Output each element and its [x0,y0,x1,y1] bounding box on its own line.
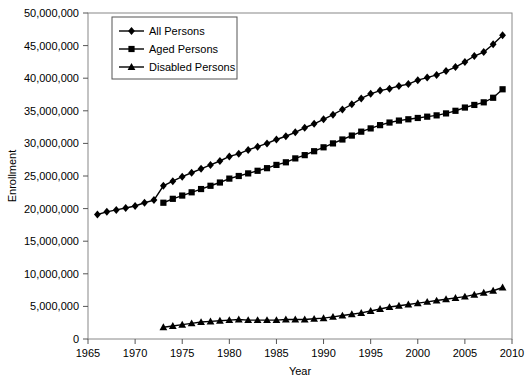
data-point-square [160,200,166,206]
data-point-square [189,189,195,195]
data-point-square [226,176,232,182]
x-axis-tick-label: 2010 [500,347,524,359]
data-point-square [236,173,242,179]
data-point-square [499,86,505,92]
data-point-square [471,102,477,108]
y-axis-tick-label: 15,000,000 [24,235,79,247]
x-axis-tick-label: 1965 [76,347,100,359]
chart-legend: All PersonsAged PersonsDisabled Persons [112,17,237,79]
legend-label: Aged Persons [149,43,219,55]
data-point-square [490,95,496,101]
y-axis-tick-label: 20,000,000 [24,203,79,215]
data-point-square [415,115,421,121]
y-axis-tick-label: 50,000,000 [24,7,79,19]
data-point-square [434,112,440,118]
data-point-square [198,186,204,192]
legend-label: All Persons [149,25,205,37]
data-point-square [128,46,134,52]
data-point-square [452,108,458,114]
data-point-square [377,122,383,128]
data-point-square [424,114,430,120]
x-axis-tick-label: 2000 [406,347,430,359]
x-axis-tick-label: 1995 [358,347,382,359]
data-point-square [207,183,213,189]
x-axis-tick-label: 1985 [264,347,288,359]
x-axis-tick-label: 1980 [217,347,241,359]
x-axis-tick-label: 1990 [311,347,335,359]
data-point-square [481,99,487,105]
data-point-square [349,132,355,138]
y-axis-tick-label: 45,000,000 [24,40,79,52]
y-axis-tick-label: 25,000,000 [24,170,79,182]
y-axis-tick-label: 35,000,000 [24,105,79,117]
y-axis-tick-label: 30,000,000 [24,137,79,149]
data-point-square [170,196,176,202]
data-point-square [405,116,411,122]
x-axis-tick-label: 2005 [453,347,477,359]
data-point-square [179,192,185,198]
data-point-square [245,170,251,176]
y-axis-tick-label: 0 [73,333,79,345]
data-point-square [255,168,261,174]
data-point-square [386,119,392,125]
x-axis-tick-label: 1975 [170,347,194,359]
x-axis-title: Year [289,365,312,377]
y-axis-tick-label: 5,000,000 [30,300,79,312]
data-point-square [339,136,345,142]
data-point-square [368,125,374,131]
data-point-square [396,117,402,123]
data-point-square [292,155,298,161]
enrollment-line-chart: 05,000,00010,000,00015,000,00020,000,000… [0,0,530,377]
data-point-square [273,162,279,168]
y-axis-tick-label: 40,000,000 [24,72,79,84]
x-axis-tick-label: 1970 [123,347,147,359]
data-point-square [462,104,468,110]
data-point-square [358,129,364,135]
chart-canvas: 05,000,00010,000,00015,000,00020,000,000… [0,0,530,377]
data-point-square [217,179,223,185]
y-axis-title: Enrollment [6,150,18,203]
y-axis-tick-label: 10,000,000 [24,268,79,280]
data-point-square [264,165,270,171]
data-point-square [311,148,317,154]
data-point-square [283,159,289,165]
data-point-square [320,144,326,150]
data-point-square [443,110,449,116]
data-point-square [302,152,308,158]
legend-label: Disabled Persons [149,61,236,73]
data-point-square [330,140,336,146]
